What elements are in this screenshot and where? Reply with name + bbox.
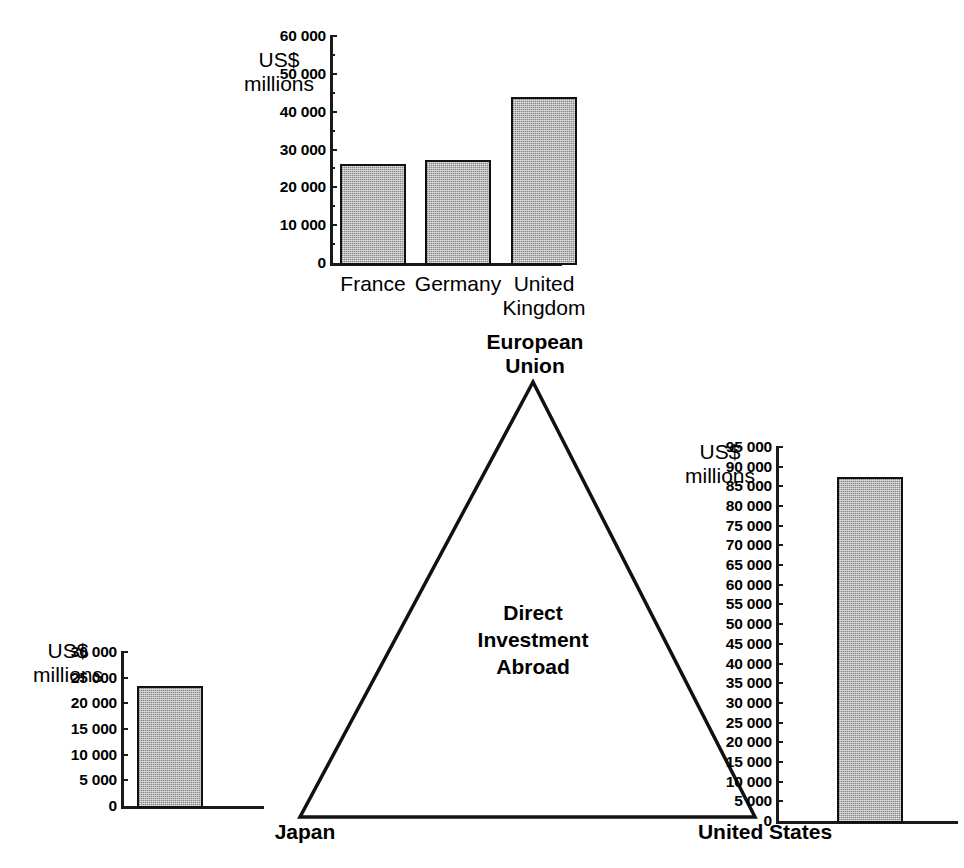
bar — [425, 160, 491, 265]
y-axis-tick-label: 5 000 — [20, 772, 117, 788]
y-axis-tick — [776, 722, 783, 724]
y-axis-tick-label: 15 000 — [672, 754, 772, 770]
y-axis-tick — [776, 702, 783, 704]
y-axis-tick — [330, 186, 337, 188]
y-axis-tick — [121, 702, 128, 704]
y-axis-tick-label: 5 000 — [672, 793, 772, 809]
y-axis-tick-label: 90 000 — [672, 459, 772, 475]
y-axis-tick — [121, 779, 128, 781]
y-axis-tick — [121, 677, 128, 679]
y-axis-tick — [776, 564, 783, 566]
y-axis-tick-label: 45 000 — [672, 636, 772, 652]
y-axis-minor-tick — [330, 167, 335, 169]
y-axis-tick — [776, 446, 783, 448]
y-axis-tick-label: 55 000 — [672, 596, 772, 612]
y-axis-tick — [776, 741, 783, 743]
y-axis-tick-label: 70 000 — [672, 537, 772, 553]
y-axis-tick — [776, 485, 783, 487]
y-axis-tick-label: 0 — [672, 813, 772, 829]
y-axis-tick — [330, 73, 337, 75]
y-axis-minor-tick — [330, 92, 335, 94]
y-axis-minor-tick — [330, 205, 335, 207]
y-axis-tick — [330, 111, 337, 113]
y-axis-tick — [776, 761, 783, 763]
x-axis-category-label: United Kingdom — [489, 272, 599, 319]
y-axis-tick-label: 25 000 — [20, 670, 117, 686]
chart-european-union: US$ millions 010 00020 00030 00040 00050… — [236, 20, 656, 330]
y-axis-tick-label: 40 000 — [236, 104, 326, 120]
y-axis-tick-label: 85 000 — [672, 478, 772, 494]
plot-area-japan: 05 00010 00015 00020 00025 00030 000 — [20, 630, 270, 830]
y-axis-tick-label: 95 000 — [672, 439, 772, 455]
y-axis-tick — [776, 525, 783, 527]
y-axis-minor-tick — [330, 243, 335, 245]
node-label-european-union: European Union — [435, 330, 635, 378]
y-axis-tick-label: 80 000 — [672, 498, 772, 514]
y-axis-tick-label: 0 — [236, 255, 326, 271]
y-axis-minor-tick — [330, 54, 335, 56]
y-axis-tick-label: 35 000 — [672, 675, 772, 691]
y-axis-minor-tick — [330, 130, 335, 132]
y-axis-tick-label: 60 000 — [236, 28, 326, 44]
y-axis-tick — [776, 623, 783, 625]
chart-united-states: US$ millions 05 00010 00015 00020 00025 … — [672, 438, 964, 828]
y-axis-tick-label: 30 000 — [236, 142, 326, 158]
center-label-direct-investment-abroad: Direct Investment Abroad — [433, 600, 633, 681]
y-axis-tick — [776, 800, 783, 802]
y-axis-tick — [776, 505, 783, 507]
y-axis-tick-label: 10 000 — [672, 774, 772, 790]
bar — [837, 477, 903, 823]
y-axis-tick-label: 10 000 — [20, 747, 117, 763]
y-axis-line — [121, 652, 124, 809]
plot-area-eu: 010 00020 00030 00040 00050 00060 000Fra… — [236, 20, 656, 330]
y-axis-tick-label: 50 000 — [236, 66, 326, 82]
y-axis-line — [776, 447, 779, 824]
plot-area-united-states: 05 00010 00015 00020 00025 00030 00035 0… — [672, 438, 964, 828]
bar — [340, 164, 406, 265]
y-axis-tick — [776, 643, 783, 645]
y-axis-tick — [776, 544, 783, 546]
y-axis-tick — [776, 781, 783, 783]
y-axis-tick-label: 0 — [20, 798, 117, 814]
y-axis-tick-label: 75 000 — [672, 518, 772, 534]
y-axis-tick-label: 40 000 — [672, 656, 772, 672]
y-axis-tick-label: 10 000 — [236, 217, 326, 233]
y-axis-tick — [121, 754, 128, 756]
y-axis-tick — [776, 682, 783, 684]
y-axis-tick — [330, 149, 337, 151]
y-axis-tick — [121, 651, 128, 653]
y-axis-tick-label: 25 000 — [672, 715, 772, 731]
y-axis-tick-label: 65 000 — [672, 557, 772, 573]
y-axis-line — [330, 36, 333, 266]
y-axis-tick — [330, 224, 337, 226]
y-axis-tick — [776, 663, 783, 665]
y-axis-tick-label: 60 000 — [672, 577, 772, 593]
y-axis-tick-label: 15 000 — [20, 721, 117, 737]
bar — [511, 97, 577, 265]
bar — [137, 686, 203, 808]
y-axis-tick-label: 20 000 — [20, 695, 117, 711]
y-axis-tick — [776, 603, 783, 605]
y-axis-tick — [330, 35, 337, 37]
y-axis-tick-label: 30 000 — [672, 695, 772, 711]
y-axis-tick — [121, 728, 128, 730]
y-axis-tick — [776, 584, 783, 586]
y-axis-tick-label: 20 000 — [672, 734, 772, 750]
y-axis-tick — [776, 466, 783, 468]
chart-japan: US$ millions 05 00010 00015 00020 00025 … — [20, 630, 270, 830]
y-axis-tick-label: 50 000 — [672, 616, 772, 632]
y-axis-tick-label: 30 000 — [20, 644, 117, 660]
figure-canvas: US$ millions 010 00020 00030 00040 00050… — [0, 0, 964, 868]
y-axis-tick-label: 20 000 — [236, 179, 326, 195]
